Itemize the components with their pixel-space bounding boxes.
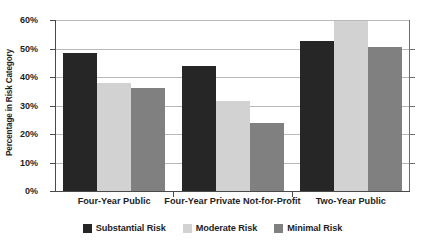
- y-tick-label: 60%: [4, 15, 38, 25]
- bar: [63, 53, 97, 191]
- bar: [216, 101, 250, 191]
- bar-chart: Percentage in Risk Category 0%10%20%30%4…: [0, 0, 425, 243]
- legend-swatch-icon: [183, 224, 192, 233]
- bar: [300, 41, 334, 191]
- y-tick-label: 40%: [4, 72, 38, 82]
- bar: [368, 47, 402, 191]
- plot-area: 0%10%20%30%40%50%60%: [55, 20, 410, 192]
- x-axis-category-label: Two-Year Public: [316, 196, 386, 206]
- chart-legend: Substantial RiskModerate RiskMinimal Ris…: [0, 223, 425, 233]
- y-tick-mark-right: [410, 77, 415, 78]
- legend-swatch-icon: [274, 224, 283, 233]
- x-axis-category-label: Four-Year Private Not-for-Profit: [164, 196, 300, 206]
- y-tick-label: 0%: [4, 186, 38, 196]
- y-tick-mark: [50, 163, 55, 164]
- y-tick-mark: [50, 20, 55, 21]
- legend-label: Minimal Risk: [287, 223, 342, 233]
- legend-item[interactable]: Moderate Risk: [183, 223, 258, 233]
- bar: [182, 66, 216, 191]
- bar: [250, 123, 284, 191]
- bar: [97, 83, 131, 191]
- legend-item[interactable]: Minimal Risk: [274, 223, 342, 233]
- y-tick-label: 20%: [4, 129, 38, 139]
- y-tick-mark-right: [410, 134, 415, 135]
- y-tick-mark: [50, 49, 55, 50]
- y-tick-label: 50%: [4, 44, 38, 54]
- y-tick-label: 10%: [4, 158, 38, 168]
- y-tick-mark-right: [410, 106, 415, 107]
- legend-item[interactable]: Substantial Risk: [83, 223, 166, 233]
- y-tick-label: 30%: [4, 101, 38, 111]
- y-tick-mark: [50, 106, 55, 107]
- bar: [334, 21, 368, 191]
- y-tick-mark: [50, 134, 55, 135]
- bar: [131, 88, 165, 191]
- legend-label: Substantial Risk: [96, 223, 166, 233]
- y-tick-mark-right: [410, 163, 415, 164]
- y-tick-mark: [50, 191, 55, 192]
- x-axis-category-label: Four-Year Public: [78, 196, 151, 206]
- legend-label: Moderate Risk: [196, 223, 258, 233]
- x-axis-line: [55, 191, 410, 192]
- y-tick-mark: [50, 77, 55, 78]
- legend-swatch-icon: [83, 224, 92, 233]
- y-tick-mark-right: [410, 49, 415, 50]
